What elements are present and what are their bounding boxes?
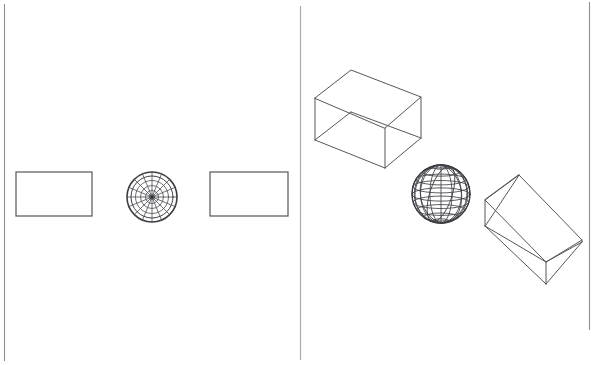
figure-canvas (0, 0, 593, 365)
figure-root (0, 0, 593, 365)
page-background (0, 0, 593, 365)
circle-center-node (150, 195, 153, 198)
circle-wireframe (127, 172, 177, 222)
